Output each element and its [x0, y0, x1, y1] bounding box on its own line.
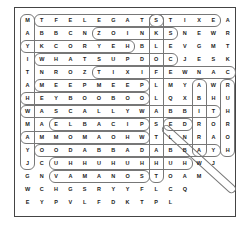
letter-cell[interactable]: F: [135, 183, 148, 195]
letter-cell[interactable]: U: [93, 157, 106, 169]
letter-cell[interactable]: U: [121, 157, 134, 169]
letter-cell[interactable]: O: [150, 53, 163, 65]
letter-cell[interactable]: O: [221, 131, 234, 143]
letter-cell[interactable]: M: [93, 79, 106, 91]
letter-cell[interactable]: B: [78, 118, 91, 130]
letter-cell[interactable]: N: [193, 66, 206, 78]
letter-cell[interactable]: I: [135, 66, 148, 78]
letter-cell[interactable]: O: [121, 92, 134, 104]
letter-cell[interactable]: T: [164, 14, 177, 26]
letter-cell[interactable]: C: [164, 183, 177, 195]
letter-cell[interactable]: O: [64, 40, 77, 52]
letter-cell[interactable]: R: [221, 79, 234, 91]
letter-cell[interactable]: X: [178, 92, 191, 104]
letter-cell[interactable]: C: [64, 27, 77, 39]
letter-cell[interactable]: L: [164, 131, 177, 143]
letter-cell[interactable]: A: [35, 105, 48, 117]
letter-cell[interactable]: U: [107, 53, 120, 65]
letter-cell[interactable]: W: [207, 27, 220, 39]
letter-cell[interactable]: Y: [178, 79, 191, 91]
letter-cell[interactable]: L: [93, 105, 106, 117]
letter-cell[interactable]: A: [64, 170, 77, 182]
letter-cell[interactable]: K: [221, 53, 234, 65]
letter-cell[interactable]: T: [35, 14, 48, 26]
letter-cell[interactable]: Y: [35, 196, 48, 208]
letter-cell[interactable]: A: [193, 79, 206, 91]
letter-cell[interactable]: N: [35, 170, 48, 182]
letter-cell[interactable]: S: [150, 118, 163, 130]
letter-cell[interactable]: D: [135, 53, 148, 65]
letter-cell[interactable]: A: [193, 144, 206, 156]
letter-cell[interactable]: S: [50, 105, 63, 117]
letter-cell[interactable]: M: [193, 170, 206, 182]
letter-cell[interactable]: O: [50, 144, 63, 156]
letter-cell[interactable]: Q: [178, 183, 191, 195]
letter-cell[interactable]: E: [50, 118, 63, 130]
letter-cell[interactable]: S: [150, 14, 163, 26]
letter-cell[interactable]: R: [193, 118, 206, 130]
letter-cell[interactable]: Z: [78, 66, 91, 78]
letter-cell[interactable]: O: [135, 92, 148, 104]
letter-cell[interactable]: P: [135, 79, 148, 91]
letter-cell[interactable]: O: [107, 131, 120, 143]
letter-cell[interactable]: A: [78, 105, 91, 117]
letter-cell[interactable]: C: [35, 183, 48, 195]
letter-cell[interactable]: T: [135, 14, 148, 26]
letter-cell[interactable]: T: [21, 66, 34, 78]
letter-cell[interactable]: E: [64, 14, 77, 26]
letter-cell[interactable]: O: [207, 118, 220, 130]
letter-cell[interactable]: A: [21, 27, 34, 39]
letter-cell[interactable]: W: [207, 79, 220, 91]
letter-cell[interactable]: O: [93, 92, 106, 104]
letter-cell[interactable]: S: [164, 27, 177, 39]
letter-cell[interactable]: H: [21, 92, 34, 104]
letter-cell[interactable]: E: [93, 14, 106, 26]
letter-cell[interactable]: O: [64, 131, 77, 143]
letter-cell[interactable]: O: [78, 92, 91, 104]
letter-cell[interactable]: K: [150, 27, 163, 39]
letter-cell[interactable]: P: [150, 196, 163, 208]
letter-cell[interactable]: R: [193, 131, 206, 143]
letter-cell[interactable]: A: [121, 144, 134, 156]
letter-cell[interactable]: H: [221, 144, 234, 156]
letter-cell[interactable]: E: [35, 92, 48, 104]
letter-cell[interactable]: S: [135, 170, 148, 182]
letter-cell[interactable]: P: [78, 79, 91, 91]
letter-cell[interactable]: L: [164, 196, 177, 208]
letter-cell[interactable]: L: [150, 183, 163, 195]
letter-cell[interactable]: W: [178, 66, 191, 78]
letter-cell[interactable]: R: [50, 66, 63, 78]
letter-cell[interactable]: C: [107, 118, 120, 130]
letter-cell[interactable]: B: [164, 144, 177, 156]
letter-cell[interactable]: E: [107, 40, 120, 52]
letter-cell[interactable]: E: [164, 40, 177, 52]
letter-cell[interactable]: H: [221, 105, 234, 117]
letter-cell[interactable]: A: [207, 66, 220, 78]
letter-cell[interactable]: L: [107, 105, 120, 117]
letter-cell[interactable]: O: [164, 170, 177, 182]
letter-cell[interactable]: T: [221, 40, 234, 52]
letter-cell[interactable]: T: [207, 105, 220, 117]
letter-cell[interactable]: J: [178, 53, 191, 65]
letter-cell[interactable]: W: [35, 53, 48, 65]
letter-cell[interactable]: E: [193, 27, 206, 39]
letter-cell[interactable]: L: [150, 79, 163, 91]
letter-cell[interactable]: L: [150, 40, 163, 52]
letter-cell[interactable]: E: [21, 196, 34, 208]
letter-cell[interactable]: P: [50, 196, 63, 208]
letter-cell[interactable]: G: [64, 183, 77, 195]
letter-cell[interactable]: Y: [107, 183, 120, 195]
letter-cell[interactable]: C: [221, 66, 234, 78]
letter-cell[interactable]: L: [64, 118, 77, 130]
letter-cell[interactable]: R: [93, 183, 106, 195]
letter-cell[interactable]: F: [150, 66, 163, 78]
letter-cell[interactable]: B: [193, 92, 206, 104]
letter-cell[interactable]: I: [21, 53, 34, 65]
letter-cell[interactable]: I: [107, 66, 120, 78]
letter-cell[interactable]: O: [35, 144, 48, 156]
letter-cell[interactable]: A: [93, 118, 106, 130]
letter-cell[interactable]: G: [193, 40, 206, 52]
letter-cell[interactable]: J: [21, 157, 34, 169]
letter-cell[interactable]: H: [178, 157, 191, 169]
letter-cell[interactable]: H: [78, 157, 91, 169]
